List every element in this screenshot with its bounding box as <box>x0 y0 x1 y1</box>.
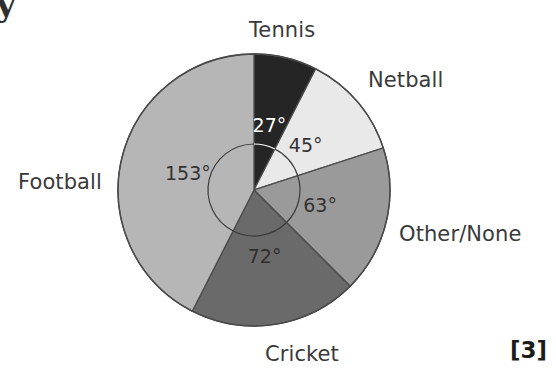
slice-outer-label-tennis: Tennis <box>249 20 315 41</box>
slice-outer-label-other-none: Other/None <box>399 224 522 245</box>
slice-outer-label-netball: Netball <box>368 70 443 91</box>
slice-value-label-other-none: 63° <box>303 194 337 216</box>
slice-outer-label-cricket: Cricket <box>265 344 339 365</box>
slice-value-label-tennis: 27° <box>253 114 287 136</box>
slice-value-label-football: 153° <box>165 162 211 184</box>
question-marks-allocation: [3] <box>510 337 547 363</box>
pie-chart-figure: y 27°45°63°72°153° Tennis Netball Other/… <box>0 0 556 370</box>
slice-outer-label-football: Football <box>18 172 102 193</box>
slice-value-label-cricket: 72° <box>248 245 282 267</box>
slice-value-label-netball: 45° <box>289 134 323 156</box>
pie-slices-group <box>118 54 390 326</box>
